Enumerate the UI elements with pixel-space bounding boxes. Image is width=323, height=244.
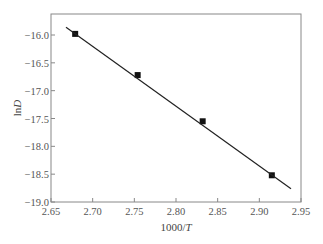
y-tick-label: −17.5 [25, 114, 49, 125]
y-tick-label: −18.0 [25, 141, 49, 152]
fit-line [66, 27, 291, 188]
y-axis-label: lnD [11, 100, 23, 117]
x-tick-label: 2.70 [83, 206, 101, 217]
plot-frame [51, 14, 301, 202]
x-axis-ticks: 2.652.702.752.802.852.902.95 [42, 198, 310, 217]
data-series [66, 27, 291, 188]
x-tick-label: 2.85 [208, 206, 226, 217]
x-tick-label: 2.80 [167, 206, 185, 217]
y-tick-label: −16.0 [25, 30, 49, 41]
x-tick-label: 2.95 [292, 206, 310, 217]
x-tick-label: 2.75 [125, 206, 143, 217]
y-tick-label: −19.0 [25, 197, 49, 208]
y-tick-label: −18.5 [25, 169, 49, 180]
y-axis-ticks: −16.0−16.5−17.0−17.5−18.0−18.5−19.0 [25, 30, 55, 208]
y-tick-label: −16.5 [25, 58, 49, 69]
chart: 2.652.702.752.802.852.902.95 −16.0−16.5−… [0, 0, 323, 244]
y-tick-label: −17.0 [25, 86, 49, 97]
x-tick-label: 2.90 [250, 206, 268, 217]
x-axis-label: 1000/T [160, 221, 192, 233]
plot-area-border [51, 14, 301, 202]
